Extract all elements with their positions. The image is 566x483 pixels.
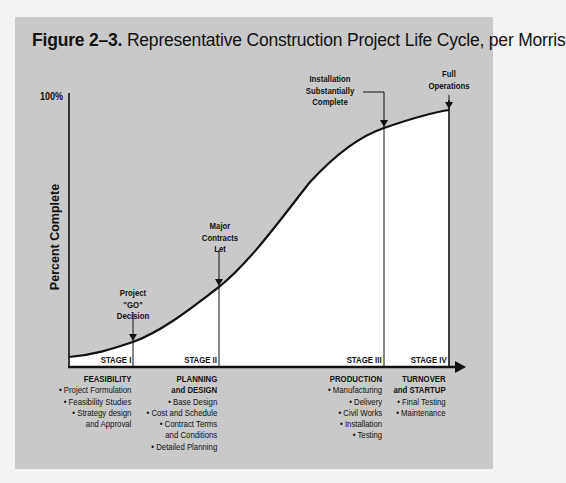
x-axis-arrow-icon bbox=[455, 361, 466, 373]
phase-turnover-startup: TURNOVER and STARTUP • Final Testing • M… bbox=[394, 373, 446, 418]
full-ops-arrow-icon bbox=[445, 102, 453, 109]
phase-feasibility: FEASIBILITY • Project Formulation • Feas… bbox=[59, 373, 131, 429]
milestone-full-ops-label: Full Operations bbox=[425, 68, 473, 91]
curve-area bbox=[69, 110, 449, 366]
milestone-contracts-label: Major Contracts Let bbox=[195, 220, 244, 255]
stage-2-label: STAGE II bbox=[184, 354, 217, 365]
stage-3-label: STAGE III bbox=[347, 354, 382, 365]
milestone-installation-label: Installation Substantially Complete bbox=[304, 73, 356, 108]
milestone-go-label: Project "GO" Decision bbox=[113, 287, 154, 322]
phase-planning-design: PLANNING and DESIGN • Base Design • Cost… bbox=[146, 373, 217, 452]
y-max-label: 100% bbox=[40, 91, 63, 102]
y-axis-label: Percent Complete bbox=[48, 184, 62, 290]
phase-production: PRODUCTION • Manufacturing • Delivery • … bbox=[328, 373, 382, 441]
stage-1-label: STAGE I bbox=[100, 354, 131, 365]
stage-4-label: STAGE IV bbox=[411, 354, 447, 365]
